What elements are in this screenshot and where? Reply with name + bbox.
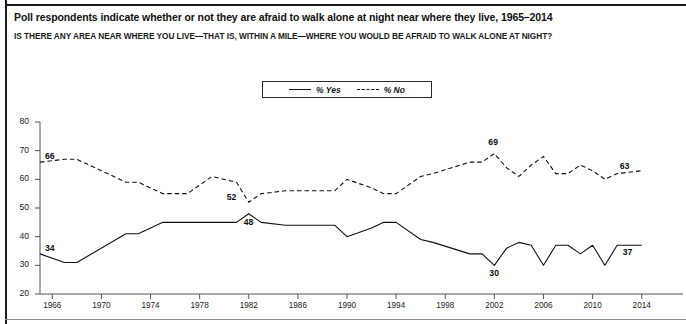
y-axis-tick-label: 60	[7, 173, 29, 183]
x-axis-tick-label: 1998	[425, 301, 465, 310]
data-point-label: 48	[244, 217, 254, 227]
data-point-label: 34	[45, 243, 55, 253]
data-point-label: 52	[227, 192, 237, 202]
series-line-yes	[40, 214, 642, 266]
x-axis-tick-label: 1990	[327, 301, 367, 310]
x-axis-tick-label: 1966	[32, 301, 72, 310]
x-axis-tick-label: 1970	[81, 301, 121, 310]
y-axis-tick-label: 70	[7, 145, 29, 155]
x-axis-tick-label: 2002	[474, 301, 514, 310]
series-line-no	[40, 154, 642, 203]
y-axis-tick-label: 80	[7, 116, 29, 126]
x-axis-tick-label: 2014	[622, 301, 662, 310]
plot-area: 2030405060708019661970197419781982198619…	[0, 0, 686, 324]
chart-page: Poll respondents indicate whether or not…	[0, 0, 686, 324]
chart-svg	[0, 0, 686, 324]
x-axis-tick-label: 2006	[523, 301, 563, 310]
x-axis-tick-label: 1982	[229, 301, 269, 310]
x-axis-tick-label: 1978	[180, 301, 220, 310]
x-axis-tick-label: 1994	[376, 301, 416, 310]
data-point-label: 63	[620, 161, 630, 171]
y-axis-tick-label: 30	[7, 259, 29, 269]
y-axis-tick-label: 20	[7, 288, 29, 298]
y-axis-tick-label: 40	[7, 231, 29, 241]
x-axis-tick-label: 2010	[573, 301, 613, 310]
data-point-label: 66	[45, 151, 55, 161]
data-point-label: 37	[623, 247, 633, 257]
x-axis-tick-label: 1974	[131, 301, 171, 310]
data-point-label: 69	[488, 137, 498, 147]
y-axis-tick-label: 50	[7, 202, 29, 212]
data-point-label: 30	[489, 268, 499, 278]
x-axis-tick-label: 1986	[278, 301, 318, 310]
